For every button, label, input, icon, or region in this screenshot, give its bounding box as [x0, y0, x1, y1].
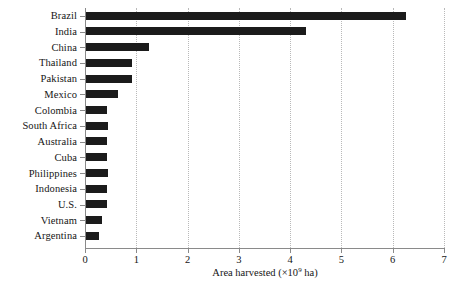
bar-u-s — [85, 200, 107, 208]
y-axis-line — [85, 8, 86, 249]
category-label-south-africa: South Africa — [22, 120, 77, 131]
x-tick-mark-5 — [341, 248, 342, 253]
category-label-mexico: Mexico — [44, 89, 77, 100]
y-tick-mark — [80, 189, 85, 190]
bar-row — [85, 24, 444, 40]
y-tick-mark — [80, 79, 85, 80]
bar-chart-figure: BrazilIndiaChinaThailandPakistanMexicoCo… — [0, 0, 475, 284]
bar-row — [85, 134, 444, 150]
bar-south-africa — [85, 122, 108, 130]
bar-vietnam — [85, 216, 102, 224]
x-tick-mark-2 — [188, 248, 189, 253]
y-tick-mark — [80, 157, 85, 158]
category-label-thailand: Thailand — [39, 57, 77, 68]
y-tick-mark — [80, 142, 85, 143]
x-tick-label-4: 4 — [275, 254, 305, 266]
bar-pakistan — [85, 75, 132, 83]
category-label-indonesia: Indonesia — [35, 183, 77, 194]
bar-row — [85, 8, 444, 24]
category-label-australia: Australia — [38, 136, 77, 147]
category-label-brazil: Brazil — [51, 10, 77, 21]
bar-australia — [85, 137, 107, 145]
category-label-colombia: Colombia — [35, 105, 77, 116]
bar-row — [85, 165, 444, 181]
category-label-india: India — [55, 26, 77, 37]
bar-china — [85, 43, 149, 51]
category-label-vietnam: Vietnam — [41, 215, 77, 226]
bar-colombia — [85, 106, 107, 114]
bar-row — [85, 181, 444, 197]
category-label-argentina: Argentina — [34, 230, 77, 241]
y-tick-mark — [80, 110, 85, 111]
bar-philippines — [85, 169, 108, 177]
x-tick-mark-7 — [444, 248, 445, 253]
bar-row — [85, 102, 444, 118]
bar-cuba — [85, 153, 107, 161]
x-axis-title-exponent: 9 — [298, 266, 302, 274]
bar-row — [85, 118, 444, 134]
x-tick-mark-1 — [136, 248, 137, 253]
x-tick-label-5: 5 — [326, 254, 356, 266]
y-tick-mark — [80, 173, 85, 174]
y-tick-mark — [80, 220, 85, 221]
y-tick-mark — [80, 236, 85, 237]
x-tick-label-6: 6 — [378, 254, 408, 266]
bar-brazil — [85, 12, 406, 20]
x-tick-label-0: 0 — [70, 254, 100, 266]
bar-row — [85, 87, 444, 103]
x-tick-label-3: 3 — [224, 254, 254, 266]
x-tick-mark-4 — [290, 248, 291, 253]
x-tick-label-1: 1 — [121, 254, 151, 266]
y-tick-mark — [80, 32, 85, 33]
y-tick-mark — [80, 47, 85, 48]
x-axis-title: Area harvested (×109 ha) — [85, 266, 445, 279]
bar-row — [85, 39, 444, 55]
y-tick-mark — [80, 205, 85, 206]
bar-mexico — [85, 90, 118, 98]
x-tick-label-7: 7 — [429, 254, 459, 266]
x-tick-mark-6 — [393, 248, 394, 253]
bar-row — [85, 55, 444, 71]
bar-thailand — [85, 59, 132, 67]
bar-row — [85, 212, 444, 228]
x-tick-mark-0 — [85, 248, 86, 253]
gridline-7 — [444, 8, 445, 248]
plot-area — [85, 8, 444, 248]
y-tick-mark — [80, 94, 85, 95]
bar-india — [85, 27, 306, 35]
category-label-u-s: U.S. — [58, 199, 77, 210]
category-label-cuba: Cuba — [54, 152, 77, 163]
category-label-pakistan: Pakistan — [41, 73, 77, 84]
bar-row — [85, 228, 444, 244]
y-tick-mark — [80, 126, 85, 127]
x-tick-mark-3 — [239, 248, 240, 253]
bar-row — [85, 150, 444, 166]
bar-row — [85, 197, 444, 213]
category-label-china: China — [51, 42, 77, 53]
x-tick-label-2: 2 — [173, 254, 203, 266]
bar-row — [85, 71, 444, 87]
bar-indonesia — [85, 185, 107, 193]
bar-argentina — [85, 232, 99, 240]
category-label-philippines: Philippines — [29, 168, 77, 179]
y-tick-mark — [80, 16, 85, 17]
y-tick-mark — [80, 63, 85, 64]
x-axis-line — [85, 248, 445, 249]
